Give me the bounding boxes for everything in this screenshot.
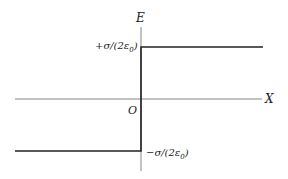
origin-label: O: [128, 105, 137, 116]
x-axis-label: X: [265, 93, 274, 105]
y-axis-label: E: [136, 12, 145, 24]
upper-level-label: +σ/(2ε0): [95, 41, 138, 54]
step-function-diagram: [0, 0, 288, 179]
upper-level-text: +σ/(2ε: [95, 40, 129, 51]
upper-level-close: ): [134, 40, 138, 51]
lower-level-text: −σ/(2ε: [146, 147, 180, 158]
lower-level-label: −σ/(2ε0): [146, 148, 189, 161]
lower-level-close: ): [185, 147, 189, 158]
